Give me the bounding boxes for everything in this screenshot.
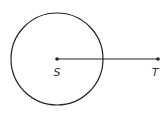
label-t: T (152, 66, 160, 79)
geometry-diagram: S T (0, 0, 161, 115)
point-t (156, 57, 160, 61)
label-s: S (54, 66, 61, 79)
point-s (55, 57, 59, 61)
